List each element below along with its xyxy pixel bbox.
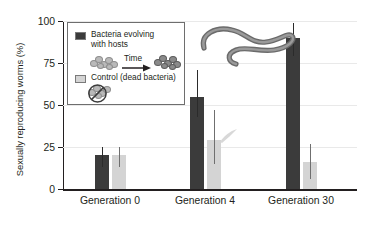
error-bar: [214, 110, 215, 164]
legend-label-control: Control (dead bacteria): [91, 73, 176, 83]
y-axis-tick: [58, 105, 63, 106]
y-axis-tick: [58, 21, 63, 22]
y-axis-tick-label: 25: [43, 142, 55, 153]
x-axis-tick-label: Generation 0: [80, 195, 140, 206]
x-axis-tick-label: Generation 30: [268, 195, 334, 206]
c-elegans-worm-photo: [196, 18, 308, 74]
prohibition-sign-icon: [87, 83, 108, 104]
y-axis-tick: [58, 147, 63, 148]
error-bar: [102, 147, 103, 167]
bacteria-cluster-dark-icon: [154, 54, 182, 71]
y-axis-title: Sexually reproducing worms (%): [14, 15, 25, 205]
background-speck: [218, 128, 240, 144]
y-axis-tick-label: 100: [38, 16, 55, 27]
bacteria-cluster-light-icon: [90, 55, 120, 71]
y-axis-tick: [58, 63, 63, 64]
legend-swatch-dark-icon: [75, 32, 86, 40]
error-bar: [310, 144, 311, 179]
legend-label-line1: Bacteria evolving: [91, 29, 154, 39]
x-axis-line: [63, 189, 357, 191]
bar-chart-figure: Sexually reproducing worms (%) 025507510…: [0, 0, 366, 227]
legend-label-bacteria-evolving: Bacteria evolving with hosts: [91, 30, 154, 49]
time-arrow-label: Time: [124, 53, 142, 63]
y-axis-tick-label: 75: [43, 58, 55, 69]
legend-label-line2: with hosts: [91, 39, 128, 49]
y-axis-tick: [58, 189, 63, 190]
legend-swatch-light-icon: [75, 75, 86, 83]
legend-entry-bacteria-evolving: Bacteria evolving with hosts: [75, 30, 181, 49]
error-bar: [197, 70, 198, 117]
y-axis-tick-label: 50: [43, 100, 55, 111]
error-bar: [119, 147, 120, 167]
x-axis-tick-label: Generation 4: [175, 195, 235, 206]
y-axis-tick-label: 0: [49, 184, 55, 195]
legend-entry-control: Control (dead bacteria): [75, 73, 183, 83]
chart-legend: Bacteria evolving with hosts Time: [67, 22, 185, 105]
